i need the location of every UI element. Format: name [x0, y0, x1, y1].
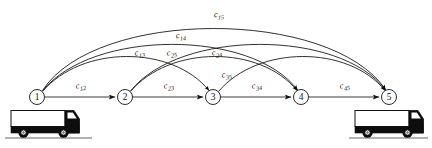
edge-label-c14: c14 [175, 30, 186, 42]
origin-truck-front-wheel [58, 127, 68, 137]
origin-truck-box [11, 111, 65, 127]
edge-c35-path[interactable] [219, 56, 386, 91]
edge-c13-path[interactable] [43, 56, 210, 91]
node-2-label: 2 [123, 92, 128, 102]
edge-label-c45: c45 [339, 79, 351, 92]
node-3[interactable]: 3 [206, 90, 221, 105]
network-diagram-figure: 1 2 3 4 5 c12 c23 c34 c45 [0, 0, 432, 148]
destination-truck-front-wheel [402, 127, 412, 137]
destination-truck-box [355, 111, 409, 127]
edge-label-c15: c15 [214, 9, 225, 21]
edge-c24-path[interactable] [131, 56, 298, 91]
edge-c15-path[interactable] [43, 28, 386, 90]
node-1-label: 1 [35, 92, 40, 102]
edge-label-c13: c13 [134, 46, 146, 59]
edge-label-c12: c12 [75, 79, 87, 92]
origin-truck [5, 111, 92, 139]
edge-label-c35: c35 [221, 68, 233, 81]
node-5[interactable]: 5 [382, 90, 397, 105]
destination-truck-rear-wheel [362, 127, 372, 137]
arc-edges-group [43, 28, 386, 91]
destination-truck [349, 111, 428, 139]
node-2[interactable]: 2 [118, 90, 133, 105]
node-1[interactable]: 1 [30, 90, 45, 105]
node-4-label: 4 [299, 92, 304, 102]
origin-truck-rear-wheel [18, 127, 28, 137]
node-3-label: 3 [211, 92, 216, 102]
edge-label-c34: c34 [251, 79, 263, 92]
edge-label-c23: c23 [163, 79, 175, 92]
edge-label-c25: c25 [166, 46, 178, 59]
diagram-canvas: 1 2 3 4 5 c12 c23 c34 c45 [0, 0, 432, 148]
node-4[interactable]: 4 [294, 90, 309, 105]
node-5-label: 5 [387, 92, 392, 102]
